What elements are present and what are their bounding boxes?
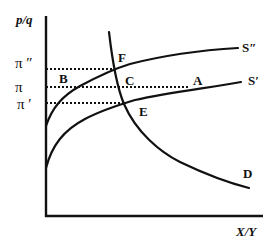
curve-label-d: D: [243, 166, 252, 181]
point-label-b: B: [59, 71, 68, 86]
price-label-pi-prime: π ′: [17, 96, 32, 112]
demand-curve-d: [109, 32, 249, 188]
diagram-canvas: p/q X/Y π ″ π π ′ S″ S′ D F C E B A: [0, 0, 277, 249]
curve-label-s-double-prime: S″: [242, 40, 256, 55]
x-axis-label: X/Y: [235, 224, 257, 239]
point-label-c: C: [125, 73, 134, 88]
price-label-pi: π: [15, 79, 23, 95]
curve-label-s-prime: S′: [248, 73, 259, 88]
point-label-f: F: [118, 50, 126, 65]
y-axis-label: p/q: [15, 12, 33, 27]
point-label-e: E: [139, 104, 148, 119]
supply-curve-s-prime: [46, 82, 241, 168]
price-label-pi-double-prime: π ″: [15, 55, 33, 71]
point-label-a: A: [193, 73, 203, 88]
